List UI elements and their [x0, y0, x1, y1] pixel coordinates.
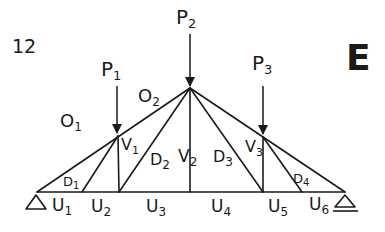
roller-support-icon: [333, 195, 358, 211]
label-u2: U2: [91, 196, 111, 219]
figure-letter: E: [346, 37, 371, 78]
member-d1: [82, 136, 118, 192]
label-u4: U4: [211, 196, 231, 219]
label-d2: D2: [150, 150, 170, 172]
member-v1: [118, 136, 119, 192]
label-d3: D3: [213, 147, 233, 169]
label-u1: U1: [52, 195, 72, 218]
label-u6: U6: [309, 194, 329, 217]
label-p2: P2: [176, 5, 196, 31]
label-d4: D4: [293, 171, 309, 188]
label-v2: V2: [178, 146, 197, 169]
top-chord-right: [190, 88, 345, 192]
label-v1: V1: [121, 135, 139, 157]
truss-diagram: 12 E P1 P2 P3 O1 O2 V1 V2 V3 D1 D2 D3 D4…: [0, 0, 385, 232]
label-p3: P3: [252, 51, 272, 77]
label-p1: P1: [101, 57, 121, 83]
pinned-support-icon: [26, 195, 46, 209]
label-u3: U3: [146, 196, 166, 219]
figure-number: 12: [12, 35, 36, 57]
label-o1: O1: [60, 110, 82, 134]
label-v3: V3: [245, 137, 263, 159]
label-u5: U5: [268, 196, 288, 219]
top-chord-left: [37, 88, 190, 192]
label-d1: D1: [63, 174, 79, 191]
label-o2: O2: [138, 85, 160, 109]
